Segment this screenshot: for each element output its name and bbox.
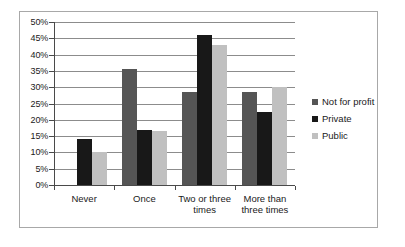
y-axis-tick-label: 30% xyxy=(31,83,48,92)
y-axis-tick-label: 45% xyxy=(31,34,48,43)
x-axis-category-label: More than three times xyxy=(229,193,301,215)
legend-label: Public xyxy=(322,131,348,141)
y-axis-tick-mark xyxy=(49,38,54,39)
x-axis-tick-mark xyxy=(295,186,296,190)
x-axis-tick-mark xyxy=(235,186,236,190)
y-axis-tick-mark xyxy=(49,87,54,88)
legend-swatch-icon xyxy=(312,133,318,139)
chart-figure: 50%45%40%35%30%25%20%15%10%5%0% NeverOnc… xyxy=(0,0,405,247)
y-axis-tick-mark xyxy=(49,120,54,121)
gridline xyxy=(54,104,295,105)
bar xyxy=(182,92,197,185)
bar xyxy=(197,35,212,185)
legend-label: Private xyxy=(322,114,352,124)
y-axis-tick-label: 5% xyxy=(35,165,48,174)
legend-item: Public xyxy=(312,127,374,144)
bar xyxy=(242,92,257,185)
gridline xyxy=(54,71,295,72)
bar xyxy=(152,131,167,185)
chart-legend: Not for profitPrivatePublic xyxy=(312,93,374,144)
bar xyxy=(257,112,272,185)
y-axis-tick-label: 25% xyxy=(31,100,48,109)
legend-swatch-icon xyxy=(312,116,318,122)
y-axis-tick-label: 40% xyxy=(31,51,48,60)
y-axis-tick-label: 35% xyxy=(31,67,48,76)
y-axis-tick-label: 20% xyxy=(31,116,48,125)
gridline xyxy=(54,87,295,88)
y-axis-tick-label: 0% xyxy=(35,181,48,190)
y-axis-tick-mark xyxy=(49,152,54,153)
y-axis-tick-label: 50% xyxy=(31,18,48,27)
x-axis-tick-mark xyxy=(175,186,176,190)
legend-item: Private xyxy=(312,110,374,127)
bar xyxy=(122,69,137,185)
y-axis-tick-mark xyxy=(49,169,54,170)
y-axis-tick-mark xyxy=(49,22,54,23)
x-axis-tick-mark xyxy=(54,186,55,190)
gridline xyxy=(54,22,295,23)
y-axis-tick-labels: 50%45%40%35%30%25%20%15%10%5%0% xyxy=(18,0,48,247)
plot-area xyxy=(54,22,295,185)
y-axis-tick-label: 15% xyxy=(31,132,48,141)
y-axis-tick-mark xyxy=(49,136,54,137)
y-axis-tick-label: 10% xyxy=(31,148,48,157)
x-axis-tick-mark xyxy=(114,186,115,190)
bar xyxy=(212,45,227,185)
bar xyxy=(92,152,107,185)
legend-swatch-icon xyxy=(312,99,318,105)
y-axis-tick-mark xyxy=(49,104,54,105)
bar xyxy=(137,130,152,185)
bar xyxy=(272,87,287,185)
bar xyxy=(77,139,92,185)
legend-label: Not for profit xyxy=(322,97,374,107)
gridline xyxy=(54,38,295,39)
legend-item: Not for profit xyxy=(312,93,374,110)
gridline xyxy=(54,55,295,56)
y-axis-tick-mark xyxy=(49,55,54,56)
y-axis-tick-mark xyxy=(49,71,54,72)
y-axis-line xyxy=(54,22,55,186)
